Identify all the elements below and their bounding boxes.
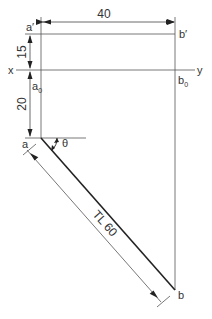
label-b: b — [178, 289, 184, 301]
dimension-15: 15 — [15, 35, 33, 69]
label-theta: θ — [62, 137, 68, 149]
label-y: y — [197, 64, 203, 76]
projection-drawing: 40 15 20 a′ b′ x y a0 b0 a b θ — [0, 0, 212, 319]
label-a: a — [22, 138, 29, 150]
dimension-20: 20 — [15, 71, 33, 137]
label-b-prime: b′ — [179, 28, 187, 40]
dimension-tl60: TL 60 — [23, 144, 170, 307]
dimension-40-label: 40 — [97, 7, 111, 21]
theta-angle: θ — [51, 137, 68, 151]
dimension-20-label: 20 — [15, 97, 29, 111]
dimension-15-label: 15 — [15, 45, 29, 59]
true-length-line — [41, 138, 175, 290]
label-b0: b0 — [178, 74, 188, 88]
dimension-40: 40 — [43, 7, 174, 25]
label-a-prime: a′ — [26, 21, 34, 33]
label-x: x — [8, 64, 14, 76]
